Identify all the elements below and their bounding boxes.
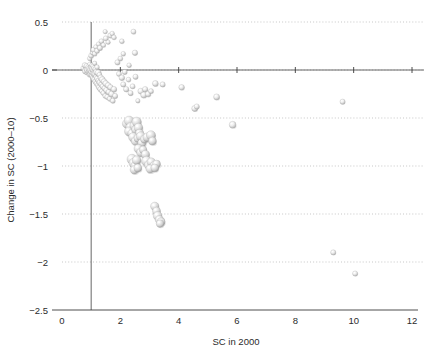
data-point-highlight [108,97,109,98]
scatter-plot-figure: 024681012 0.50−0.5−1−1.5−2−2.5 SC in 200… [0,0,431,357]
data-point-marker [95,65,100,70]
data-point-highlight [100,40,101,41]
data-point-marker [110,98,115,103]
data-point-marker [101,43,106,48]
y-tick-label-3: −1 [37,161,48,172]
data-point-marker [194,104,199,109]
x-tick-label-1: 2 [118,315,123,326]
data-point-marker [331,250,336,255]
data-point-highlight [100,90,101,91]
data-point-highlight [120,40,121,41]
data-point-marker [119,39,124,44]
data-point-highlight [107,41,108,42]
data-point-highlight [129,156,132,158]
data-point-marker [179,84,185,90]
x-tick-label-2: 4 [176,315,181,326]
data-point [122,69,127,75]
data-point-highlight [100,83,102,84]
data-point [110,98,115,104]
data-point-highlight [136,125,139,127]
data-point-highlight [120,76,122,77]
data-point-highlight [97,43,98,44]
data-point-marker [148,137,156,145]
data-point-highlight [99,88,101,89]
data-point-marker [134,164,142,172]
data-point-marker [103,29,107,33]
data-point-highlight [127,78,128,79]
data-point-highlight [133,51,135,52]
data-point-marker [229,121,236,128]
data-point-marker [214,94,220,100]
data-point-marker [131,29,136,34]
data-point-marker [106,40,110,44]
data-point-highlight [104,30,105,31]
data-point-highlight [103,87,105,88]
data-point-highlight [117,72,119,73]
data-point-marker [353,271,358,276]
data-point-marker [148,89,153,94]
data-point [103,29,108,34]
data-point-highlight [106,84,108,85]
data-point-highlight [139,89,141,90]
data-point-highlight [135,166,137,168]
data-point-highlight [155,213,158,215]
data-point-highlight [114,94,116,95]
data-point-marker [132,156,141,165]
data-point [133,74,139,80]
data-point [179,84,185,90]
data-point-highlight [158,221,160,223]
data-point-marker [152,81,158,87]
y-tick-label-6: −2.5 [29,305,48,316]
x-tick-label-4: 8 [293,315,298,326]
data-point-highlight [341,100,343,101]
data-point-marker [142,87,147,92]
data-point-highlight [134,75,136,76]
y-tick-label-0: 0.5 [35,17,48,28]
x-tick-label-3: 6 [234,315,239,326]
data-point [156,220,164,228]
data-point-marker [121,82,126,87]
data-point-highlight [112,88,114,89]
data-point-marker [111,86,117,92]
data-point-marker [127,63,132,68]
data-point-highlight [136,146,139,148]
data-point [148,137,156,146]
data-point-marker [112,35,117,40]
data-point-highlight [126,118,129,120]
data-point-highlight [104,37,106,38]
x-tick-label-6: 12 [407,315,418,326]
x-tick-labels-group: 024681012 [59,315,417,326]
data-point [131,29,136,35]
data-point [112,35,117,40]
tick-marks-group [52,67,412,310]
data-point-highlight [109,86,111,87]
data-points-group [81,29,358,277]
scatter-plot-canvas: 024681012 0.50−0.5−1−1.5−2−2.5 SC in 200… [0,0,431,357]
data-point-highlight [231,123,233,125]
data-point-highlight [94,46,95,47]
data-point [353,271,359,277]
data-point [340,99,346,105]
data-point-highlight [97,86,99,87]
data-point-highlight [148,133,151,135]
data-point-highlight [161,83,163,84]
data-point-highlight [148,166,151,168]
data-point [331,250,337,256]
data-point-marker [122,69,127,74]
data-point-highlight [100,78,102,79]
data-point-highlight [129,92,131,93]
data-point-highlight [96,77,98,78]
y-tick-labels-group: 0.50−0.5−1−1.5−2−2.5 [29,17,48,316]
data-point [126,77,131,82]
data-point-highlight [104,82,106,83]
data-point-highlight [98,73,99,74]
data-point-highlight [93,52,94,53]
reference-lines-group [52,22,424,310]
data-point-highlight [105,89,107,90]
data-point-highlight [152,204,155,206]
data-point-highlight [112,36,113,37]
y-tick-label-4: −1.5 [29,209,48,220]
data-point [160,82,166,88]
data-point-highlight [132,30,134,31]
data-point-highlight [107,91,109,92]
